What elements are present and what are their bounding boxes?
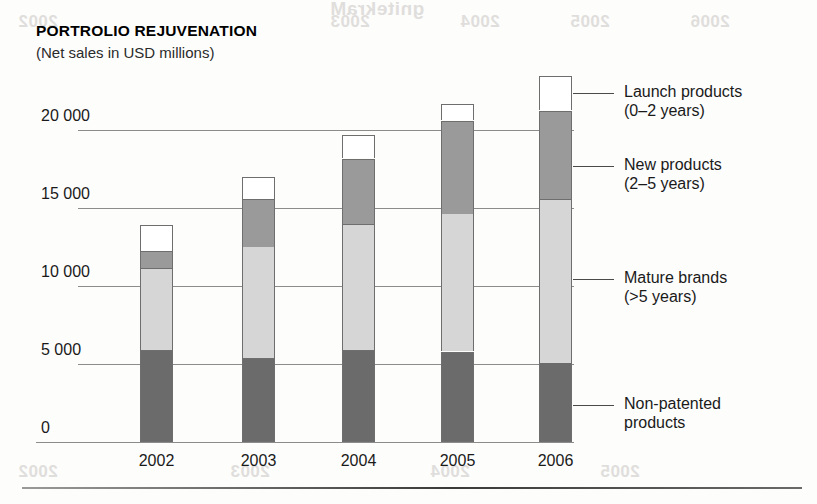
legend-item-sublabel: products [624, 413, 721, 432]
x-axis-tick-label: 2005 [418, 452, 498, 470]
bar-segment[interactable] [242, 177, 275, 199]
legend-item-label: Launch products [624, 83, 742, 100]
legend-item[interactable]: Non-patentedproducts [624, 394, 721, 432]
legend-item[interactable]: Launch products(0–2 years) [624, 82, 742, 120]
bar-column[interactable] [242, 0, 275, 504]
bar-segment[interactable] [342, 135, 375, 158]
bar-segment[interactable] [342, 350, 375, 442]
bar-column[interactable] [342, 0, 375, 504]
bar-segment[interactable] [539, 199, 572, 363]
y-axis-tick-label: 10 000 [41, 263, 90, 281]
legend-item-sublabel: (0–2 years) [624, 101, 742, 120]
bar-column[interactable] [140, 0, 173, 504]
legend-item-sublabel: (>5 years) [624, 287, 727, 306]
legend-leader-line [573, 279, 614, 280]
x-axis-tick-label: 2006 [516, 452, 596, 470]
legend-leader-line [573, 93, 614, 94]
bar-segment[interactable] [539, 111, 572, 199]
legend-item[interactable]: Mature brands(>5 years) [624, 268, 727, 306]
bar-segment[interactable] [441, 104, 474, 120]
legend-item-label: New products [624, 156, 722, 173]
page-divider-rule [22, 487, 802, 489]
bar-segment[interactable] [140, 251, 173, 268]
bar-segment[interactable] [342, 159, 375, 224]
bar-segment[interactable] [441, 121, 474, 214]
bar-segment[interactable] [140, 225, 173, 251]
bar-column[interactable] [539, 0, 572, 504]
bar-segment[interactable] [140, 268, 173, 350]
y-axis-tick-label: 5 000 [41, 341, 81, 359]
x-axis-tick-label: 2002 [117, 452, 197, 470]
bar-segment[interactable] [539, 362, 572, 442]
legend-item-label: Mature brands [624, 269, 727, 286]
bleed-artifact-row: 2006 [690, 12, 730, 32]
legend-leader-line [573, 405, 614, 406]
x-axis-tick-label: 2003 [219, 452, 299, 470]
legend-leader-line [573, 166, 614, 167]
bar-column[interactable] [441, 0, 474, 504]
bar-segment[interactable] [441, 352, 474, 442]
y-axis-tick-label: 20 000 [41, 107, 90, 125]
x-axis-tick-label: 2004 [319, 452, 399, 470]
legend-item-sublabel: (2–5 years) [624, 174, 722, 193]
legend-item-label: Non-patented [624, 395, 721, 412]
bar-segment[interactable] [441, 213, 474, 351]
bar-segment[interactable] [539, 76, 572, 110]
bleed-artifact-row: 2005 [570, 12, 610, 32]
chart-subtitle: (Net sales in USD millions) [36, 44, 214, 61]
y-axis-tick-label: 15 000 [41, 185, 90, 203]
bar-segment[interactable] [242, 358, 275, 442]
bar-segment[interactable] [242, 246, 275, 358]
bleed-artifact-row: 2005 [600, 462, 640, 482]
bar-segment[interactable] [342, 224, 375, 350]
bleed-artifact-row: 2002 [18, 462, 58, 482]
chart-page: gnitekraM 2002 2003 2004 2005 2006 2002 … [0, 0, 817, 504]
bar-segment[interactable] [140, 350, 173, 442]
x-axis-line [36, 442, 574, 443]
y-axis-tick-label: 0 [41, 419, 50, 437]
legend-item[interactable]: New products(2–5 years) [624, 155, 722, 193]
bar-segment[interactable] [242, 199, 275, 247]
